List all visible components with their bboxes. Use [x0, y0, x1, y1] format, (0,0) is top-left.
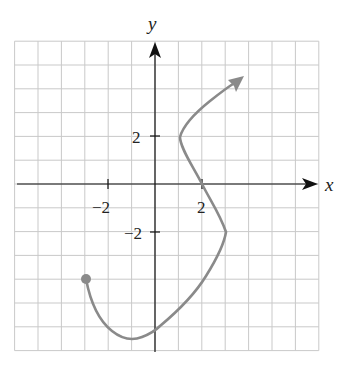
x-tick-label-2: 2 — [197, 198, 206, 217]
y-axis-label: y — [146, 13, 157, 34]
x-axis-label: x — [324, 174, 334, 195]
grid — [15, 41, 319, 350]
graph: −2 2 2 −2 y x — [0, 0, 357, 372]
y-tick-label-neg2: −2 — [124, 224, 142, 243]
x-tick-label-neg2: −2 — [92, 198, 110, 217]
y-tick-label-2: 2 — [132, 128, 141, 147]
curve-arrow-icon — [228, 76, 244, 92]
curve-start-dot — [81, 274, 91, 284]
